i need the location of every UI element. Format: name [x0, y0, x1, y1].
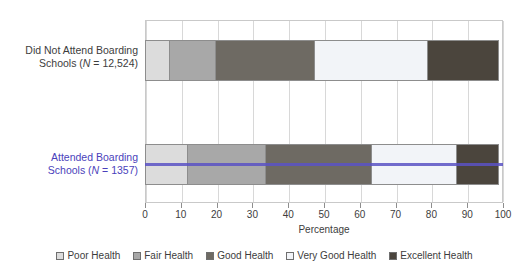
x-tick-label: 30 — [234, 209, 270, 220]
x-tick-label: 0 — [127, 209, 163, 220]
gridline — [503, 21, 504, 202]
category-label-line2: Schools (N = 12,524) — [6, 57, 138, 70]
x-tick-label: 10 — [163, 209, 199, 220]
category-label-prefix: Schools ( — [39, 57, 83, 69]
legend-item-fair-health[interactable]: Fair Health — [133, 250, 193, 261]
legend: Poor HealthFair HealthGood HealthVery Go… — [0, 250, 529, 261]
x-tick-label: 60 — [342, 209, 378, 220]
category-label-line1: Did Not Attend Boarding — [6, 44, 138, 57]
stacked-bar-row[interactable] — [145, 40, 499, 81]
legend-item-good-health[interactable]: Good Health — [206, 250, 273, 261]
legend-label: Poor Health — [67, 250, 120, 261]
x-tick — [431, 203, 432, 208]
selection-highlight-line — [145, 163, 503, 166]
category-label-did-not-attend: Did Not Attend Boarding Schools (N = 12,… — [6, 44, 138, 70]
x-tick — [252, 203, 253, 208]
category-label-prefix: Schools ( — [48, 164, 92, 176]
legend-item-excellent-health[interactable]: Excellent Health — [389, 250, 472, 261]
x-tick-label: 20 — [199, 209, 235, 220]
bar-segment-good-health[interactable] — [215, 40, 315, 81]
bar-segment-very-good-health[interactable] — [314, 40, 429, 81]
x-tick — [360, 203, 361, 208]
x-tick-label: 90 — [449, 209, 485, 220]
x-tick — [217, 203, 218, 208]
legend-label: Fair Health — [144, 250, 193, 261]
x-axis-title: Percentage — [145, 224, 503, 235]
bar-segment-poor-health[interactable] — [145, 40, 170, 81]
legend-swatch-icon — [133, 252, 141, 260]
x-tick — [503, 203, 504, 208]
bar-segment-fair-health[interactable] — [169, 40, 216, 81]
legend-swatch-icon — [286, 252, 294, 260]
category-label-line2: Schools (N = 1357) — [6, 164, 138, 177]
category-label-line1: Attended Boarding — [6, 151, 138, 164]
x-tick-label: 100 — [485, 209, 521, 220]
legend-item-poor-health[interactable]: Poor Health — [56, 250, 120, 261]
category-label-attended: Attended Boarding Schools (N = 1357) — [6, 151, 138, 177]
x-tick — [181, 203, 182, 208]
legend-swatch-icon — [206, 252, 214, 260]
sample-size-value: = 12,524) — [90, 57, 138, 69]
legend-label: Excellent Health — [400, 250, 472, 261]
bar-segment-excellent-health[interactable] — [427, 40, 499, 81]
legend-label: Good Health — [217, 250, 273, 261]
x-tick-label: 80 — [413, 209, 449, 220]
x-tick-label: 40 — [270, 209, 306, 220]
legend-item-very-good-health[interactable]: Very Good Health — [286, 250, 376, 261]
x-tick — [324, 203, 325, 208]
legend-swatch-icon — [56, 252, 64, 260]
x-tick-label: 50 — [306, 209, 342, 220]
sample-size-value: = 1357) — [99, 164, 138, 176]
x-tick-label: 70 — [378, 209, 414, 220]
legend-swatch-icon — [389, 252, 397, 260]
x-tick — [288, 203, 289, 208]
legend-label: Very Good Health — [297, 250, 376, 261]
x-tick — [396, 203, 397, 208]
x-tick — [467, 203, 468, 208]
stacked-bar-chart: Did Not Attend Boarding Schools (N = 12,… — [0, 0, 529, 278]
x-tick — [145, 203, 146, 208]
